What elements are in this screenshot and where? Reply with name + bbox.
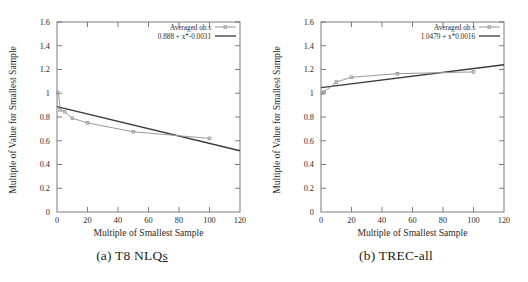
xtick-label: 60 [408, 216, 416, 225]
chart-a-obs-series [59, 93, 210, 138]
chart-b-y-axis-title: Multiple of Value for Smallest Sample [271, 46, 282, 194]
xtick-label: 120 [234, 216, 246, 225]
ytick-label: 0.8 [304, 113, 314, 122]
xtick-label: 80 [439, 216, 447, 225]
chart-panel-b: Multiple of Value for Smallest Sample 1.… [264, 0, 528, 282]
ytick-label: 0.2 [40, 184, 50, 193]
ytick-label: 0.8 [40, 113, 50, 122]
xtick-label: 120 [498, 216, 510, 225]
chart-b-legend: Averaged ob.s 1.0479 + x*0.0016 [421, 24, 500, 41]
xtick-label: 40 [114, 216, 122, 225]
chart-b-plot-frame [321, 22, 504, 212]
chart-a-legend: Averaged ob.s 0.888 + x*-0.0031 [158, 24, 236, 41]
xtick-label: 0 [319, 216, 323, 225]
xtick-label: 20 [83, 216, 91, 225]
xtick-label: 100 [203, 216, 215, 225]
ytick-label: 1 [46, 89, 50, 98]
figure-container: Multiple of Value for Smallest Sample 1.… [0, 0, 528, 282]
chart-panel-a: Multiple of Value for Smallest Sample 1.… [0, 0, 264, 282]
ytick-label: 1.2 [40, 65, 50, 74]
chart-b-obs-markers [321, 71, 475, 95]
chart-a-y-axis-title: Multiple of Value for Smallest Sample [7, 46, 18, 194]
chart-a-svg: Multiple of Value for Smallest Sample 1.… [0, 0, 264, 250]
ytick-label: 0 [310, 208, 314, 217]
chart-a-x-axis-title: Multiple of Smallest Sample [93, 227, 203, 238]
chart-b-legend-obs-label: Averaged ob.s [434, 24, 475, 32]
chart-a-caption: (a) T8 NLQs [0, 248, 264, 264]
ytick-label: 0.2 [304, 184, 314, 193]
chart-a-fit-line [57, 107, 240, 151]
xtick-label: 60 [144, 216, 152, 225]
ytick-label: 1.4 [304, 42, 315, 51]
chart-a-caption-text: (a) T8 NLQ [96, 248, 162, 263]
ytick-label: 0.6 [40, 137, 50, 146]
xtick-label: 0 [55, 216, 59, 225]
chart-b-ytick-labels: 1.6 1.4 1.2 1 0.8 0.6 0.4 0.2 0 [304, 18, 315, 217]
chart-a-obs-markers [57, 91, 211, 140]
chart-a-legend-fit-label: 0.888 + x*-0.0031 [158, 33, 212, 41]
ytick-label: 0.4 [304, 160, 315, 169]
xtick-label: 100 [467, 216, 479, 225]
chart-a-ylabel-group: Multiple of Value for Smallest Sample [7, 46, 18, 194]
ytick-label: 1.2 [304, 65, 314, 74]
chart-a-xtick-labels: 0 20 40 60 80 100 120 [55, 216, 246, 225]
chart-a-legend-obs-label: Averaged ob.s [170, 24, 211, 32]
chart-b-ylabel-group: Multiple of Value for Smallest Sample [271, 46, 282, 194]
chart-b-caption-text: (b) TREC-all [359, 248, 433, 263]
chart-b-tickmarks [321, 22, 504, 212]
ytick-label: 0 [46, 208, 50, 217]
ytick-label: 1 [310, 89, 314, 98]
chart-b-xtick-labels: 0 20 40 60 80 100 120 [319, 216, 510, 225]
ytick-label: 1.4 [40, 42, 51, 51]
chart-b-fit-line [321, 65, 504, 88]
ytick-label: 0.4 [40, 160, 51, 169]
xtick-label: 80 [175, 216, 183, 225]
ytick-label: 1.6 [40, 18, 50, 27]
chart-b-caption: (b) TREC-all [264, 248, 528, 264]
chart-a-ytick-labels: 1.6 1.4 1.2 1 0.8 0.6 0.4 0.2 0 [40, 18, 51, 217]
chart-a-caption-suffix: s [162, 248, 167, 263]
xtick-label: 20 [347, 216, 355, 225]
chart-b-svg: Multiple of Value for Smallest Sample 1.… [264, 0, 528, 250]
chart-b-legend-fit-label: 1.0479 + x*0.0016 [421, 33, 476, 41]
ytick-label: 0.6 [304, 137, 314, 146]
ytick-label: 1.6 [304, 18, 314, 27]
chart-a-tickmarks [57, 22, 240, 212]
chart-a-plot-frame [57, 22, 240, 212]
xtick-label: 40 [378, 216, 386, 225]
chart-b-x-axis-title: Multiple of Smallest Sample [357, 227, 467, 238]
